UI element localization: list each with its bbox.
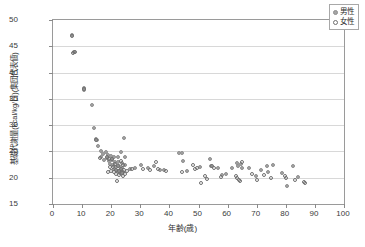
data-point-female	[293, 178, 297, 182]
data-point-male	[259, 168, 263, 172]
data-point-female	[148, 168, 152, 172]
x-tick-label: 60	[216, 209, 238, 218]
x-tick-label: 80	[274, 209, 296, 218]
data-point-female	[262, 173, 266, 177]
data-point-female	[212, 166, 216, 170]
x-tick-label: 90	[303, 209, 325, 218]
data-point-female	[70, 34, 74, 38]
data-point-female	[180, 170, 184, 174]
y-tick-mark	[49, 99, 53, 100]
x-tick-mark	[111, 204, 112, 208]
data-point-female	[219, 175, 223, 179]
x-tick-mark	[82, 204, 83, 208]
data-point-male	[224, 172, 228, 176]
data-point-male	[90, 103, 94, 107]
x-tick-label: 30	[128, 209, 150, 218]
data-point-male	[116, 155, 120, 159]
gridline	[53, 125, 344, 126]
y-tick-mark	[49, 125, 53, 126]
x-tick-mark	[199, 204, 200, 208]
data-point-female	[205, 177, 209, 181]
gridline	[53, 178, 344, 179]
data-point-male	[185, 169, 189, 173]
y-tick-mark	[49, 151, 53, 152]
y-tick-mark	[49, 20, 53, 21]
gridline	[53, 99, 344, 100]
female-marker-icon	[333, 20, 338, 25]
x-tick-mark	[140, 204, 141, 208]
gridline	[53, 46, 344, 47]
data-point-female	[238, 179, 242, 183]
x-tick-label: 40	[157, 209, 179, 218]
x-tick-label: 70	[245, 209, 267, 218]
x-tick-label: 20	[99, 209, 121, 218]
x-tick-label: 0	[41, 209, 63, 218]
x-tick-label: 100	[332, 209, 354, 218]
data-point-male	[265, 164, 269, 168]
data-point-male	[291, 164, 295, 168]
data-point-female	[284, 176, 288, 180]
y-axis-title: 基礎代謝量(kcal/kg/日)(集団代表値)	[8, 34, 19, 184]
data-point-male	[285, 184, 289, 188]
data-point-male	[122, 136, 126, 140]
data-point-female	[199, 181, 203, 185]
x-tick-mark	[228, 204, 229, 208]
data-point-male	[181, 159, 185, 163]
x-tick-mark	[315, 204, 316, 208]
data-point-male	[240, 166, 244, 170]
male-marker-icon	[333, 10, 338, 15]
data-point-female	[164, 169, 168, 173]
y-tick-mark	[49, 73, 53, 74]
legend-item-male: 男性	[333, 7, 354, 17]
data-point-male	[96, 144, 100, 148]
gridline	[53, 73, 344, 74]
data-point-female	[73, 50, 77, 54]
data-point-male	[247, 166, 251, 170]
x-tick-label: 10	[70, 209, 92, 218]
data-point-male	[216, 166, 220, 170]
data-point-female	[250, 172, 254, 176]
chart-legend: 男性 女性	[329, 4, 359, 30]
x-tick-mark	[169, 204, 170, 208]
legend-label-female: 女性	[340, 17, 354, 27]
data-point-female	[98, 156, 102, 160]
x-tick-mark	[286, 204, 287, 208]
data-point-male	[271, 163, 275, 167]
x-tick-mark	[53, 204, 54, 208]
data-point-male	[123, 155, 127, 159]
data-point-female	[125, 169, 129, 173]
data-point-female	[154, 160, 158, 164]
plot-area	[52, 19, 345, 205]
data-point-male	[266, 170, 270, 174]
data-point-male	[119, 150, 123, 154]
data-point-male	[92, 126, 96, 130]
y-tick-mark	[49, 178, 53, 179]
x-tick-mark	[344, 204, 345, 208]
y-tick-label: 50	[0, 15, 18, 24]
x-axis-title: 年齢(歳)	[0, 222, 365, 233]
data-point-male	[230, 166, 234, 170]
data-point-female	[195, 166, 199, 170]
data-point-female	[303, 181, 307, 185]
data-point-female	[130, 167, 134, 171]
data-point-female	[269, 176, 273, 180]
data-point-male	[208, 157, 212, 161]
data-point-male	[254, 174, 258, 178]
y-tick-mark	[49, 46, 53, 47]
data-point-female	[115, 179, 119, 183]
data-point-male	[180, 151, 184, 155]
x-tick-label: 50	[187, 209, 209, 218]
gridline	[53, 151, 344, 152]
data-point-female	[255, 178, 259, 182]
scatter-chart-figure: 1520253035404550 0102030405060708090100 …	[0, 0, 365, 247]
data-point-female	[141, 167, 145, 171]
legend-label-male: 男性	[340, 7, 354, 17]
legend-item-female: 女性	[333, 17, 354, 27]
x-tick-mark	[257, 204, 258, 208]
y-tick-label: 15	[0, 199, 18, 208]
